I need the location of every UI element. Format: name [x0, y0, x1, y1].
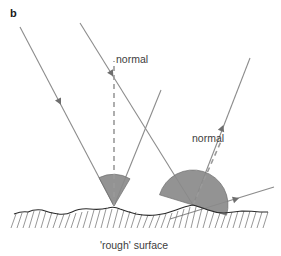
panel-letter: b — [10, 7, 17, 19]
normal-label-right: normal — [192, 132, 224, 144]
figure-caption: 'rough' surface — [100, 239, 168, 251]
normal-label-left: normal — [116, 53, 148, 65]
diagram-canvas: b normal normal 'rough' surface — [0, 0, 281, 256]
optics-diffuse-reflection-figure: b normal normal 'rough' surface — [0, 0, 281, 256]
